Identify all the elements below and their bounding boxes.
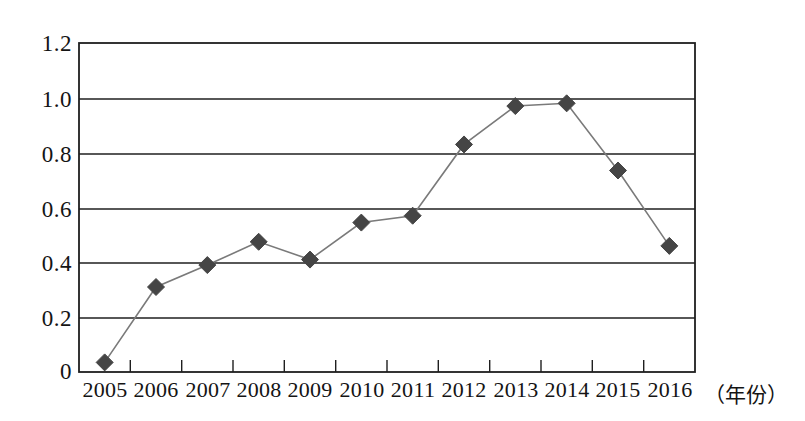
data-point-2008 xyxy=(250,233,267,250)
data-point-2016 xyxy=(661,237,678,254)
data-point-2010 xyxy=(353,214,370,231)
data-point-markers xyxy=(96,95,678,371)
x-tick-label-2016: 2016 xyxy=(635,377,705,403)
plot-frame xyxy=(79,43,695,372)
chart-canvas xyxy=(0,0,805,421)
y-tick-label-0.8: 0.8 xyxy=(22,142,72,168)
y-tick-label-0.2: 0.2 xyxy=(22,306,72,332)
data-point-2013 xyxy=(507,98,524,115)
y-tick-label-0: 0 xyxy=(22,359,72,385)
data-point-2015 xyxy=(610,162,627,179)
data-point-2007 xyxy=(199,257,216,274)
data-point-2005 xyxy=(96,354,113,371)
line-chart: 1.2 1.0 0.8 0.6 0.4 0.2 0 2005 2006 2007… xyxy=(0,0,805,421)
data-point-2014 xyxy=(558,95,575,112)
y-tick-label-0.4: 0.4 xyxy=(22,251,72,277)
y-tick-label-1.2: 1.2 xyxy=(22,31,72,57)
x-axis-ticks xyxy=(130,360,643,372)
data-point-2006 xyxy=(148,279,165,296)
data-point-2009 xyxy=(302,251,319,268)
data-point-2012 xyxy=(456,136,473,153)
plot-gridlines xyxy=(79,99,695,318)
y-tick-label-0.6: 0.6 xyxy=(22,197,72,223)
y-tick-label-1.0: 1.0 xyxy=(22,87,72,113)
x-axis-title: （年份） xyxy=(704,378,788,408)
data-series-line xyxy=(105,103,670,362)
